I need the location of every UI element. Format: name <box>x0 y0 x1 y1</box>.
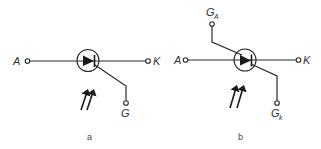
caption-b: b <box>238 132 243 142</box>
gate-terminal-a <box>124 101 129 106</box>
cathode-label-b: K <box>303 54 311 66</box>
cathode-gate-terminal-b <box>275 101 280 106</box>
light-arrows-icon-b <box>230 88 243 108</box>
anode-gate-terminal-b <box>210 22 215 27</box>
light-arrows-icon-a <box>81 92 93 110</box>
panel-a: A K G a <box>12 50 161 143</box>
gate-wire-a <box>95 65 126 101</box>
caption-a: a <box>87 132 92 142</box>
anode-terminal-a <box>25 59 30 64</box>
anode-gate-subscript-b: A <box>213 13 219 20</box>
anode-gate-wire-b <box>212 26 242 55</box>
anode-label-a: A <box>12 55 20 67</box>
cathode-gate-wire-b <box>251 64 277 101</box>
panel-b: A K G A G k b <box>173 6 311 142</box>
cathode-terminal-a <box>146 59 151 64</box>
anode-label-b: A <box>173 54 181 66</box>
anode-terminal-b <box>183 58 188 63</box>
diode-triangle-a <box>83 56 94 67</box>
gate-label-a: G <box>121 107 130 119</box>
thyristor-diagram: A K G a A K G A G k <box>0 0 321 149</box>
cathode-label-a: K <box>153 55 161 67</box>
diode-triangle-b <box>240 55 251 66</box>
cathode-terminal-b <box>296 58 301 63</box>
cathode-gate-subscript-b: k <box>279 114 283 121</box>
